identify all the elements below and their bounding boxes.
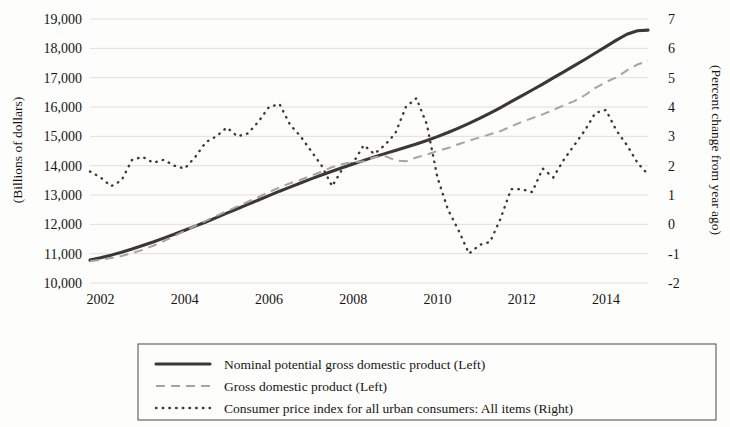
y-tick-label: 13,000 <box>44 188 83 203</box>
secondary-y-tick-label: 6 <box>668 41 675 56</box>
legend-label-1: Gross domestic product (Left) <box>224 379 387 394</box>
secondary-y-tick-label: 0 <box>668 217 675 232</box>
y-tick-label: 14,000 <box>44 159 83 174</box>
y-axis-title: (Billions of dollars) <box>10 97 25 204</box>
y-tick-label: 12,000 <box>44 217 83 232</box>
legend-label-2: Consumer price index for all urban consu… <box>224 401 573 416</box>
y-tick-label: 16,000 <box>44 100 83 115</box>
y-tick-label: 18,000 <box>44 41 83 56</box>
secondary-y-tick-label: -1 <box>668 247 680 262</box>
chart-canvas: 2002200420062008201020122014 10,00011,00… <box>0 0 730 427</box>
x-tick-label: 2012 <box>508 292 536 307</box>
data-series-layer <box>90 30 648 261</box>
secondary-y-tick-label: 5 <box>668 71 675 86</box>
series-line-2 <box>90 98 648 253</box>
secondary-y-tick-label: 2 <box>668 159 675 174</box>
x-axis-tick-labels: 2002200420062008201020122014 <box>87 292 620 307</box>
secondary-y-tick-label: 1 <box>668 188 675 203</box>
x-tick-label: 2002 <box>87 292 115 307</box>
secondary-y-axis-title: (Percent change from year ago) <box>709 65 724 235</box>
y-tick-label: 10,000 <box>44 276 83 291</box>
x-tick-label: 2006 <box>255 292 283 307</box>
x-tick-label: 2008 <box>339 292 367 307</box>
secondary-y-tick-label: 7 <box>668 12 675 27</box>
chart-figure: 2002200420062008201020122014 10,00011,00… <box>0 0 730 427</box>
y-tick-label: 15,000 <box>44 129 83 144</box>
y-tick-label: 17,000 <box>44 71 83 86</box>
secondary-y-axis-tick-labels: -2-101234567 <box>668 12 680 291</box>
gridlines <box>90 19 648 283</box>
secondary-y-tick-label: 3 <box>668 129 675 144</box>
y-tick-label: 11,000 <box>44 247 82 262</box>
secondary-y-tick-label: -2 <box>668 276 680 291</box>
x-tick-label: 2010 <box>423 292 451 307</box>
secondary-y-tick-label: 4 <box>668 100 675 115</box>
series-line-0 <box>90 30 648 260</box>
y-tick-label: 19,000 <box>44 12 83 27</box>
y-axis-tick-labels: 10,00011,00012,00013,00014,00015,00016,0… <box>44 12 83 291</box>
legend-label-0: Nominal potential gross domestic product… <box>224 357 485 372</box>
chart-legend: Nominal potential gross domestic product… <box>138 344 716 420</box>
x-tick-label: 2014 <box>592 292 620 307</box>
x-tick-label: 2004 <box>171 292 199 307</box>
